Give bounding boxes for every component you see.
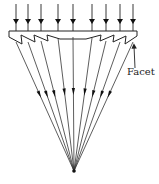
fresnel-lens-diagram <box>0 0 159 184</box>
incoming-parallel-rays <box>13 4 136 31</box>
focal-point <box>72 169 76 173</box>
facet-pointer-arrow <box>134 46 135 68</box>
facet-label: Facet <box>127 66 155 77</box>
converging-rays <box>16 37 133 171</box>
